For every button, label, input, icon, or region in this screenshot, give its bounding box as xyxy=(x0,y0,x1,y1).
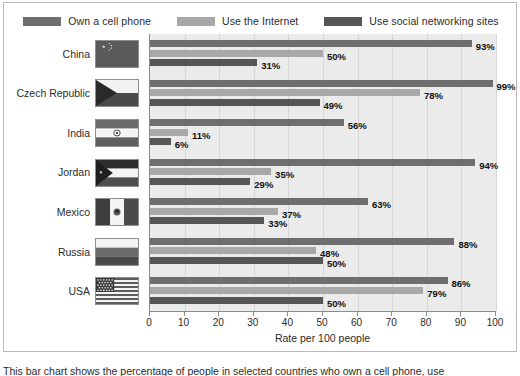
flag-jordan-icon xyxy=(95,159,139,187)
bar-value-label-mexico-series0: 63% xyxy=(368,199,391,210)
bar-group-india: 56%11%6% xyxy=(150,113,496,153)
bar-group-usa: 86%79%50% xyxy=(150,271,496,311)
x-tick-label-80: 80 xyxy=(420,317,431,328)
category-label-text: USA xyxy=(68,285,94,297)
bar-value-label-czech-series0: 99% xyxy=(493,80,516,91)
chart-legend: Own a cell phone Use the Internet Use so… xyxy=(4,13,518,29)
category-axis-labels: ChinaCzech RepublicIndiaJordanMexicoRuss… xyxy=(4,34,94,311)
category-label-text: Russia xyxy=(58,246,94,258)
bar-value-label-usa-series2: 50% xyxy=(323,297,346,308)
x-tick-90 xyxy=(460,312,461,316)
legend-swatch-own-a-cell-phone xyxy=(23,17,61,26)
bar-value-label-jordan-series2: 29% xyxy=(250,178,273,189)
bar-value-label-usa-series1: 79% xyxy=(423,288,446,299)
bar-usa-series2 xyxy=(150,297,323,304)
category-label-mexico: Mexico xyxy=(4,192,94,232)
legend-label-use-the-internet: Use the Internet xyxy=(222,15,298,27)
category-label-text: Jordan xyxy=(58,166,94,178)
category-label-usa: USA xyxy=(4,271,94,311)
bar-value-label-jordan-series1: 35% xyxy=(271,169,294,180)
category-label-india: India xyxy=(4,113,94,153)
bar-russia-series2 xyxy=(150,257,323,264)
bar-value-label-india-series2: 6% xyxy=(171,139,189,150)
x-tick-label-100: 100 xyxy=(487,317,504,328)
bar-india-series0 xyxy=(150,119,344,126)
bar-mexico-series0 xyxy=(150,198,368,205)
bar-mexico-series2 xyxy=(150,217,264,224)
x-tick-50 xyxy=(322,312,323,316)
bar-group-china: 93%50%31% xyxy=(150,34,496,74)
plot-area: 93%50%31%99%78%49%56%11%6%94%35%29%63%37… xyxy=(149,34,496,311)
category-label-text: Mexico xyxy=(57,206,94,218)
category-label-czech: Czech Republic xyxy=(4,74,94,114)
country-flag-column xyxy=(93,34,145,311)
x-tick-100 xyxy=(495,312,496,316)
bar-russia-series0 xyxy=(150,238,454,245)
x-tick-80 xyxy=(426,312,427,316)
x-axis-title: Rate per 100 people xyxy=(149,332,496,344)
x-tick-label-40: 40 xyxy=(282,317,293,328)
legend-label-use-social-networking-sites: Use social networking sites xyxy=(369,15,498,27)
x-tick-label-0: 0 xyxy=(146,317,152,328)
category-label-china: China xyxy=(4,34,94,74)
x-tick-label-60: 60 xyxy=(351,317,362,328)
x-tick-label-70: 70 xyxy=(386,317,397,328)
bar-usa-series1 xyxy=(150,287,423,294)
bar-group-czech: 99%78%49% xyxy=(150,74,496,114)
bar-india-series1 xyxy=(150,129,188,136)
legend-swatch-use-social-networking-sites xyxy=(324,17,362,26)
bar-value-label-india-series0: 56% xyxy=(344,120,367,131)
bar-india-series2 xyxy=(150,138,171,145)
bar-value-label-china-series0: 93% xyxy=(472,41,495,52)
bar-russia-series1 xyxy=(150,247,316,254)
bar-jordan-series0 xyxy=(150,159,475,166)
figure-caption-text: This bar chart shows the percentage of p… xyxy=(3,366,517,376)
bar-value-label-czech-series1: 78% xyxy=(420,90,443,101)
x-tick-0 xyxy=(149,312,150,316)
bar-china-series1 xyxy=(150,50,323,57)
category-label-text: China xyxy=(63,48,94,60)
flag-india-icon xyxy=(95,119,139,147)
category-label-text: Czech Republic xyxy=(16,87,94,99)
flag-usa-icon xyxy=(95,277,139,305)
gridline-100 xyxy=(496,34,497,311)
flag-mexico-icon xyxy=(95,198,139,226)
category-label-jordan: Jordan xyxy=(4,153,94,193)
bar-usa-series0 xyxy=(150,277,448,284)
bar-czech-series1 xyxy=(150,89,420,96)
legend-item-use-social-networking-sites: Use social networking sites xyxy=(324,15,498,27)
bar-group-mexico: 63%37%33% xyxy=(150,192,496,232)
legend-swatch-use-the-internet xyxy=(177,17,215,26)
flag-czech-republic-icon xyxy=(95,79,139,107)
bar-value-label-mexico-series2: 33% xyxy=(264,218,287,229)
chart-card: Own a cell phone Use the Internet Use so… xyxy=(3,2,517,352)
bar-china-series2 xyxy=(150,59,257,66)
bar-value-label-usa-series0: 86% xyxy=(448,278,471,289)
bar-czech-series0 xyxy=(150,80,493,87)
flag-russia-icon xyxy=(95,238,139,266)
bar-value-label-jordan-series0: 94% xyxy=(475,159,498,170)
x-tick-label-50: 50 xyxy=(316,317,327,328)
chart-screenshot: Own a cell phone Use the Internet Use so… xyxy=(0,0,520,376)
bar-jordan-series1 xyxy=(150,168,271,175)
x-tick-10 xyxy=(184,312,185,316)
category-label-text: India xyxy=(67,127,94,139)
flag-china-icon xyxy=(95,40,139,68)
bar-group-jordan: 94%35%29% xyxy=(150,153,496,193)
bar-value-label-india-series1: 11% xyxy=(188,129,211,140)
legend-item-use-the-internet: Use the Internet xyxy=(177,15,298,27)
bar-mexico-series1 xyxy=(150,208,278,215)
legend-item-own-a-cell-phone: Own a cell phone xyxy=(23,15,151,27)
x-tick-label-90: 90 xyxy=(455,317,466,328)
bar-value-label-china-series2: 31% xyxy=(257,60,280,71)
bar-czech-series2 xyxy=(150,99,320,106)
bar-china-series0 xyxy=(150,40,472,47)
chart-area: ChinaCzech RepublicIndiaJordanMexicoRuss… xyxy=(4,34,518,352)
category-label-russia: Russia xyxy=(4,232,94,272)
x-tick-label-10: 10 xyxy=(178,317,189,328)
legend-label-own-a-cell-phone: Own a cell phone xyxy=(68,15,151,27)
bar-value-label-russia-series2: 50% xyxy=(323,258,346,269)
x-tick-20 xyxy=(218,312,219,316)
x-tick-40 xyxy=(287,312,288,316)
bar-value-label-russia-series0: 88% xyxy=(454,238,477,249)
